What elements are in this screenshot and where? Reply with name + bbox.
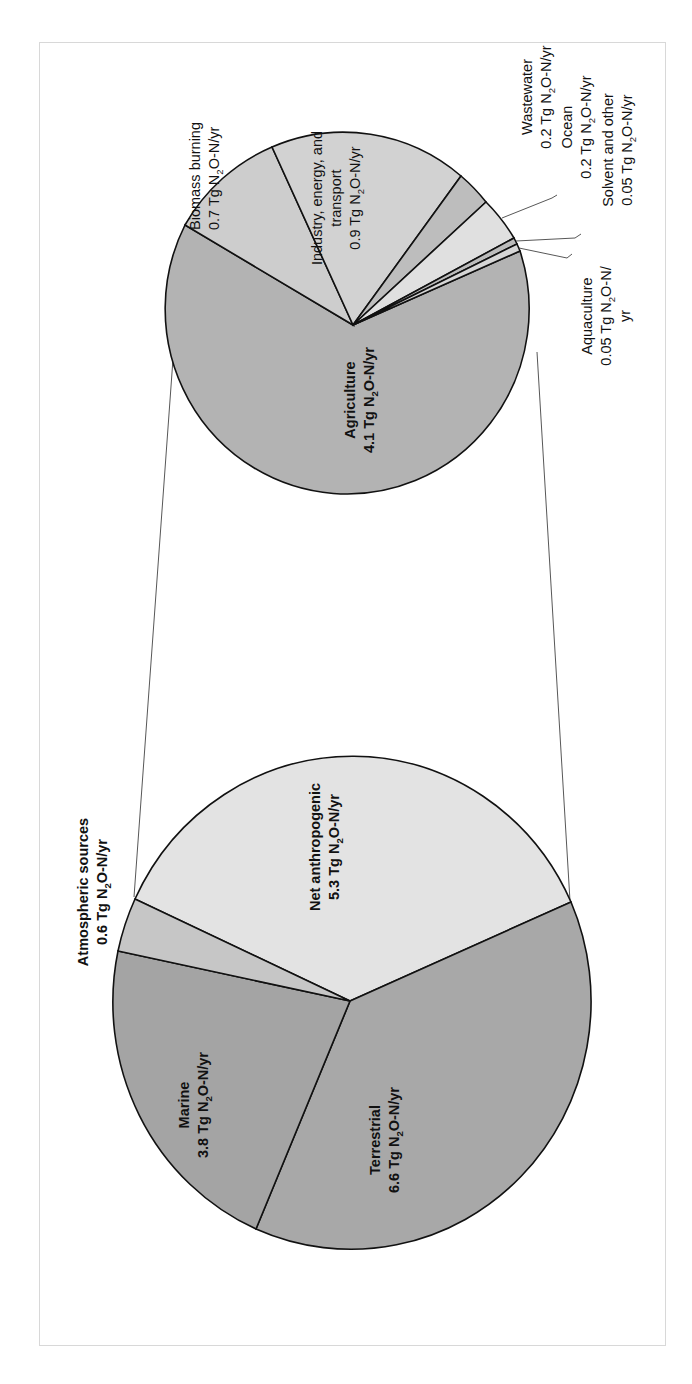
leader-solvent-and-other (516, 234, 581, 241)
svg-text:0.05 Tg N2O-N/yr: 0.05 Tg N2O-N/yr (619, 94, 638, 206)
label-solvent-and-other: Solvent and other 0.05 Tg N2O-N/yr (600, 93, 638, 207)
label-atmospheric-sources: Atmospheric sources 0.6 Tg N2O-N/yr (75, 818, 113, 966)
leader-ocean (502, 195, 557, 218)
svg-text:0.05 Tg N2O-N/: 0.05 Tg N2O-N/ (598, 265, 617, 365)
label-aquaculture: Aquaculture 0.05 Tg N2O-N/ yr (579, 265, 633, 365)
label-net-anthropogenic: Net anthropogenic 5.3 Tg N2O-N/yr (307, 783, 345, 911)
label-biomass-burning: Biomass burning 0.7 Tg N2O-N/yr (187, 122, 225, 230)
svg-text:Atmospheric sources: Atmospheric sources (75, 818, 91, 966)
svg-text:Agriculture: Agriculture (342, 361, 358, 438)
svg-text:Biomass burning: Biomass burning (187, 122, 203, 230)
svg-text:Net anthropogenic: Net anthropogenic (307, 783, 323, 911)
main-pie (113, 756, 591, 1249)
svg-text:Marine: Marine (176, 1082, 192, 1129)
label-wastewater: Wastewater 0.2 Tg N2O-N/yr (519, 45, 557, 149)
svg-text:Terrestrial: Terrestrial (367, 1105, 383, 1175)
svg-text:yr: yr (617, 310, 633, 322)
connector-line-left (134, 345, 174, 897)
pie-of-pie-chart: Biomass burning 0.7 Tg N2O-N/yr Industry… (0, 0, 692, 1384)
label-agriculture: Agriculture 4.1 Tg N2O-N/yr (342, 347, 380, 453)
connector-line-right (537, 352, 570, 901)
svg-text:0.2 Tg N2O-N/yr: 0.2 Tg N2O-N/yr (578, 75, 597, 179)
svg-text:Wastewater: Wastewater (519, 59, 535, 135)
svg-text:0.2 Tg N2O-N/yr: 0.2 Tg N2O-N/yr (538, 45, 557, 149)
svg-text:transport: transport (328, 169, 344, 226)
svg-text:0.6 Tg N2O-N/yr: 0.6 Tg N2O-N/yr (94, 839, 113, 945)
svg-text:Ocean: Ocean (559, 106, 575, 149)
svg-text:Aquaculture: Aquaculture (579, 277, 595, 354)
svg-text:Solvent and other: Solvent and other (600, 93, 616, 207)
label-ocean: Ocean 0.2 Tg N2O-N/yr (559, 75, 597, 179)
leader-aquaculture (519, 248, 572, 258)
svg-text:Industry, energy, and: Industry, energy, and (309, 131, 325, 265)
